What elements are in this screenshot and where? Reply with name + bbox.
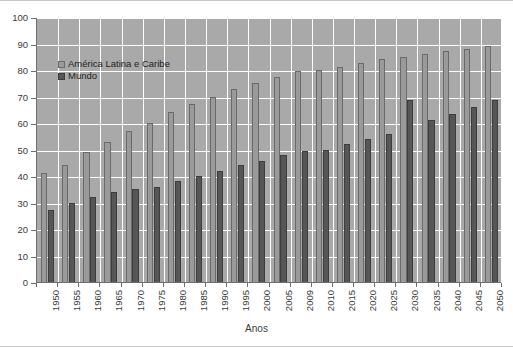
x-axis-tick-label: 1970 <box>136 290 146 311</box>
bar-lac <box>379 59 385 282</box>
legend-swatch-lac-icon <box>58 61 65 68</box>
x-axis-tick-mark <box>480 283 481 287</box>
x-axis-tick-mark <box>184 283 185 287</box>
x-axis-tick-label: 1985 <box>199 290 209 311</box>
legend-item-lac: América Latina e Caribe <box>58 58 170 70</box>
y-axis-tick-label: 100 <box>12 13 28 23</box>
x-axis-tick-mark <box>374 283 375 287</box>
x-axis-tick-label: 1960 <box>93 290 103 311</box>
bar-lac <box>422 54 428 282</box>
x-axis-tick-mark <box>501 283 502 287</box>
bar-mundo <box>132 189 138 282</box>
x-axis-tick-label: 1955 <box>72 290 82 311</box>
x-axis-tick-mark <box>459 283 460 287</box>
bar-lac <box>210 97 216 283</box>
x-axis-tick-mark <box>121 283 122 287</box>
bar-lac <box>295 71 301 282</box>
bar-mundo <box>111 192 117 282</box>
chart-figure: 0102030405060708090100 América Latina e … <box>0 0 513 347</box>
bar-lac <box>62 165 68 282</box>
bar-mundo <box>302 151 308 282</box>
y-axis-tick-label: 50 <box>17 146 28 156</box>
x-axis-tick-label: 2005 <box>284 290 294 311</box>
bar-mundo <box>471 107 477 282</box>
legend-label-mundo: Mundo <box>68 70 97 82</box>
y-axis-tick-label: 10 <box>17 252 28 262</box>
bar-mundo <box>238 165 244 282</box>
x-axis-tick-mark <box>226 283 227 287</box>
x-axis-tick-mark <box>395 283 396 287</box>
x-axis-tick-label: 2000 <box>262 290 272 311</box>
bar-mundo <box>69 203 75 283</box>
bar-lac <box>189 104 195 282</box>
bar-mundo <box>344 144 350 282</box>
x-axis-tick-mark <box>78 283 79 287</box>
legend: América Latina e Caribe Mundo <box>58 58 170 82</box>
bar-mundo <box>492 100 498 282</box>
x-axis-tick-label: 2009 <box>305 290 315 311</box>
x-axis-tick-label: 1995 <box>241 290 251 311</box>
bar-lac <box>485 46 491 282</box>
bar-lac <box>147 123 153 282</box>
x-axis-tick-mark <box>57 283 58 287</box>
x-axis-tick-label: 2030 <box>410 290 420 311</box>
x-axis-tick-label: 1950 <box>51 290 61 311</box>
y-axis: 0102030405060708090100 <box>0 1 36 283</box>
x-axis-tick-mark <box>205 283 206 287</box>
bar-mundo <box>280 155 286 282</box>
bar-lac <box>126 131 132 282</box>
x-axis-tick-mark <box>353 283 354 287</box>
bar-lac <box>41 173 47 282</box>
bar-lac <box>400 57 406 282</box>
x-axis-tick-label: 2020 <box>368 290 378 311</box>
bar-mundo <box>154 187 160 282</box>
x-axis-tick-label: 1965 <box>114 290 124 311</box>
bar-mundo <box>449 114 455 282</box>
bar-mundo <box>175 181 181 282</box>
x-axis-tick-mark <box>269 283 270 287</box>
x-axis-tick-label: 2045 <box>474 290 484 311</box>
bar-lac <box>443 51 449 282</box>
x-axis-tick-mark <box>311 283 312 287</box>
bar-lac <box>231 89 237 282</box>
y-axis-tick-label: 20 <box>17 225 28 235</box>
x-axis-tick-mark <box>416 283 417 287</box>
x-axis-tick-mark <box>332 283 333 287</box>
x-axis-tick-mark <box>247 283 248 287</box>
bar-mundo <box>259 161 265 282</box>
x-axis-tick-mark <box>36 283 37 287</box>
bar-lac <box>358 63 364 282</box>
legend-item-mundo: Mundo <box>58 70 170 82</box>
y-axis-tick-label: 30 <box>17 199 28 209</box>
bar-lac <box>316 70 322 282</box>
x-axis-title: Anos <box>0 323 513 334</box>
x-axis-tick-mark <box>142 283 143 287</box>
y-axis-tick-label: 40 <box>17 172 28 182</box>
bar-lac <box>464 49 470 282</box>
bar-lac <box>337 67 343 282</box>
x-axis-tick-label: 1975 <box>157 290 167 311</box>
bar-mundo <box>428 120 434 282</box>
x-axis-tick-label: 1980 <box>178 290 188 311</box>
y-axis-tick-label: 80 <box>17 66 28 76</box>
x-axis-tick-label: 2040 <box>453 290 463 311</box>
bar-mundo <box>365 139 371 282</box>
bar-mundo <box>48 210 54 282</box>
x-axis-tick-mark <box>438 283 439 287</box>
x-axis-tick-mark <box>290 283 291 287</box>
y-axis-tick-label: 60 <box>17 119 28 129</box>
x-axis-tick-label: 2025 <box>389 290 399 311</box>
x-axis-tick-mark <box>99 283 100 287</box>
bar-lac <box>168 112 174 282</box>
legend-label-lac: América Latina e Caribe <box>68 58 170 70</box>
x-axis-tick-mark <box>163 283 164 287</box>
bar-lac <box>274 77 280 282</box>
bar-lac <box>83 152 89 282</box>
bar-lac <box>252 83 258 282</box>
x-axis-tick-label: 2035 <box>432 290 442 311</box>
x-axis-tick-label: 2010 <box>326 290 336 311</box>
bar-mundo <box>217 171 223 282</box>
x-axis-tick-label: 2050 <box>495 290 505 311</box>
y-axis-tick-label: 70 <box>17 93 28 103</box>
bar-mundo <box>90 197 96 282</box>
